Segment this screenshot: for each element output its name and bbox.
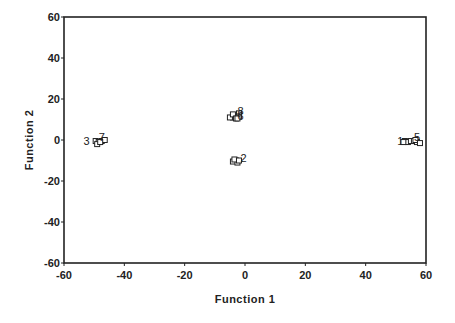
group-label-1: 1 xyxy=(397,135,403,147)
x-tick-label: 40 xyxy=(360,269,372,281)
group-label-5: 5 xyxy=(414,131,420,143)
y-tick-label: -40 xyxy=(44,216,60,228)
y-axis-ticks: 6040200-20-40-60 xyxy=(44,11,64,269)
scatter-chart: -60-40-200204060 6040200-20-40-60 152378… xyxy=(0,0,455,323)
y-axis-title: Function 2 xyxy=(23,110,35,171)
y-tick-label: -60 xyxy=(44,257,60,269)
x-tick-label: -40 xyxy=(116,269,132,281)
y-tick-label: -20 xyxy=(44,175,60,187)
plot-border xyxy=(64,17,426,263)
x-axis-title: Function 1 xyxy=(215,293,276,305)
y-tick-label: 20 xyxy=(48,93,60,105)
group-label-7: 7 xyxy=(99,131,105,143)
x-tick-label: -20 xyxy=(177,269,193,281)
plot-frame xyxy=(64,17,426,263)
y-tick-label: 40 xyxy=(48,52,60,64)
x-tick-label: 60 xyxy=(420,269,432,281)
group-label-2: 2 xyxy=(240,152,246,164)
x-axis-ticks: -60-40-200204060 xyxy=(56,263,432,281)
x-tick-label: 0 xyxy=(242,269,248,281)
group-labels: 1523786 xyxy=(84,105,420,164)
y-tick-label: 0 xyxy=(54,134,60,146)
group-label-6: 6 xyxy=(237,110,243,122)
x-tick-label: -60 xyxy=(56,269,72,281)
group-label-3: 3 xyxy=(84,135,90,147)
data-points xyxy=(93,111,422,165)
y-tick-label: 60 xyxy=(48,11,60,23)
x-tick-label: 20 xyxy=(299,269,311,281)
